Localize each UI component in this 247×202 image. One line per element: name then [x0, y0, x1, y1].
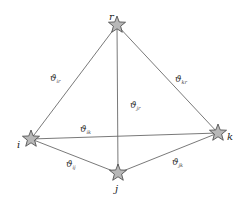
star-node-i-icon [22, 130, 39, 146]
nodes [22, 16, 226, 180]
edge-label-ir: ϑir [50, 73, 61, 84]
edge-labels: ϑirϑkrϑjrϑikϑijϑjk [50, 73, 187, 171]
node-label-r: r [109, 11, 115, 22]
edge-subscript: jr [135, 105, 141, 112]
edge-j-r [117, 25, 118, 173]
star-node-j-icon [109, 164, 126, 180]
edge-label-ij: ϑij [66, 159, 76, 171]
edge-subscript: jk [177, 162, 183, 169]
edge-subscript: ij [72, 164, 76, 171]
edge-subscript: ik [86, 129, 91, 135]
edge-k-r [117, 25, 218, 133]
edge-i-r [31, 25, 117, 139]
edge-label-kr: ϑkr [175, 74, 187, 85]
node-labels: rikj [17, 11, 233, 194]
edge-subscript: kr [181, 79, 187, 85]
network-diagram: ϑirϑkrϑjrϑikϑijϑjk rikj [0, 0, 247, 202]
edge-i-k [31, 133, 218, 139]
edge-label-jk: ϑjk [172, 157, 183, 169]
edge-subscript: ir [56, 78, 61, 84]
edges [31, 25, 218, 173]
node-label-j: j [113, 183, 118, 194]
node-label-k: k [227, 131, 233, 142]
node-label-i: i [17, 139, 20, 150]
edge-label-jr: ϑjr [130, 100, 141, 112]
edge-j-k [118, 133, 218, 173]
edge-label-ik: ϑik [80, 124, 91, 135]
